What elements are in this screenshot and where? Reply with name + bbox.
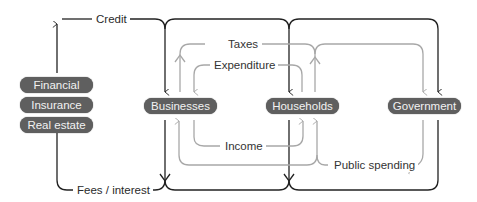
label-public-spending: Public spending (331, 159, 418, 172)
label-credit: Credit (93, 13, 130, 26)
node-government: Government (388, 98, 461, 114)
economic-flow-diagram: Financial Insurance Real estate Business… (0, 0, 477, 202)
label-expenditure: Expenditure (211, 59, 278, 72)
credit-flow (57, 19, 438, 92)
node-businesses: Businesses (144, 98, 217, 114)
label-taxes: Taxes (225, 38, 261, 51)
fees-interest-flow (57, 120, 438, 190)
node-households: Households (266, 98, 339, 114)
node-insurance: Insurance (20, 97, 93, 113)
label-income: Income (222, 140, 266, 153)
node-financial: Financial (20, 77, 93, 93)
node-real-estate: Real estate (20, 117, 93, 133)
label-fees-interest: Fees / interest (74, 184, 153, 197)
